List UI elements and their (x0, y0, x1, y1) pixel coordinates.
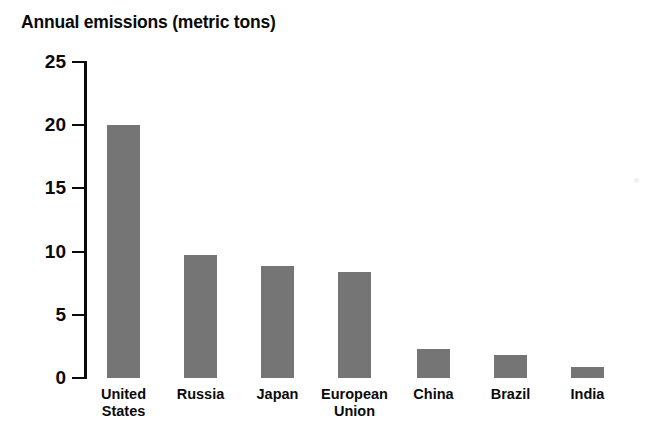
y-axis-tick-label-text: 15 (22, 178, 66, 197)
y-axis-tick-label: 5 (0, 305, 66, 325)
y-axis-tick-label-text: 0 (22, 368, 66, 387)
y-axis-tick-label-text: 20 (22, 115, 66, 134)
y-axis-tick-label-text: 25 (22, 52, 66, 71)
y-axis-tick (72, 124, 84, 126)
y-axis-tick-label: 10 (0, 242, 66, 262)
bar-chart: Annual emissions (metric tons) 051015202… (0, 0, 647, 447)
y-axis-tick-label-text: 5 (22, 305, 66, 324)
y-axis-tick (72, 377, 84, 379)
y-axis-tick (72, 187, 84, 189)
chart-title: Annual emissions (metric tons) (21, 12, 276, 33)
bar-european-union (338, 272, 371, 378)
bar-brazil (494, 355, 527, 378)
bar-russia (184, 255, 217, 378)
scan-artifact-speck (634, 178, 639, 183)
y-axis-line (84, 61, 87, 379)
y-axis-tick (72, 61, 84, 63)
y-axis-tick-label: 20 (0, 115, 66, 135)
bar-india (571, 367, 604, 378)
y-axis-tick-label: 0 (0, 368, 66, 388)
x-axis-label-india: India (538, 386, 638, 403)
y-axis-tick (72, 314, 84, 316)
y-axis-tick-label-text: 10 (22, 242, 66, 261)
y-axis-tick-label: 15 (0, 178, 66, 198)
y-axis-tick-label: 25 (0, 52, 66, 72)
bar-japan (261, 266, 294, 378)
bar-china (417, 349, 450, 378)
bar-united-states (107, 125, 140, 378)
y-axis-tick (72, 251, 84, 253)
